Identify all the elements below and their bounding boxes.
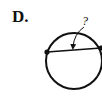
circle-chord-diagram: ?	[0, 0, 102, 96]
pointer-arrow-icon	[73, 27, 84, 47]
chord-endpoint-left	[44, 49, 49, 54]
chord-line	[47, 48, 101, 52]
question-mark: ?	[82, 14, 88, 28]
